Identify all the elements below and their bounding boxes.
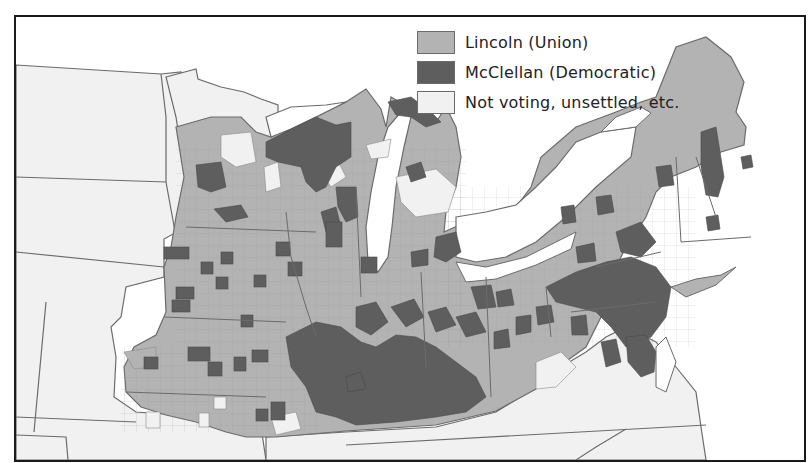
not-voting-swatch bbox=[417, 91, 455, 114]
mcclellan-swatch bbox=[417, 61, 455, 84]
legend-label: Lincoln (Union) bbox=[465, 33, 588, 52]
lincoln-swatch bbox=[417, 31, 455, 54]
legend-item-mcclellan: McClellan (Democratic) bbox=[417, 57, 680, 87]
election-map bbox=[16, 17, 804, 460]
legend-item-not-voting: Not voting, unsettled, etc. bbox=[417, 87, 680, 117]
legend-item-lincoln: Lincoln (Union) bbox=[417, 27, 680, 57]
map-legend: Lincoln (Union) McClellan (Democratic) N… bbox=[417, 27, 680, 117]
map-frame: Lincoln (Union) McClellan (Democratic) N… bbox=[14, 15, 806, 462]
legend-label: Not voting, unsettled, etc. bbox=[465, 93, 680, 112]
legend-label: McClellan (Democratic) bbox=[465, 63, 656, 82]
